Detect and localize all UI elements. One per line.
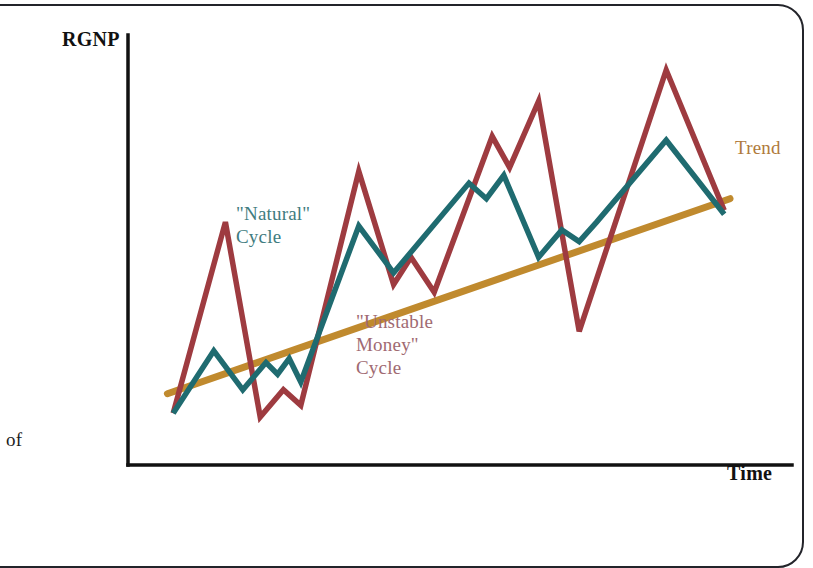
annotation-natural-cycle: "Natural" Cycle: [236, 202, 310, 248]
y-axis-title: RGNP: [62, 28, 120, 51]
annotation-trend: Trend: [735, 136, 781, 159]
x-axis-title: Time: [727, 462, 772, 485]
annotation-unstable-money: "Unstable Money" Cycle: [356, 310, 433, 379]
series-natural-cycle-line: [173, 140, 724, 413]
